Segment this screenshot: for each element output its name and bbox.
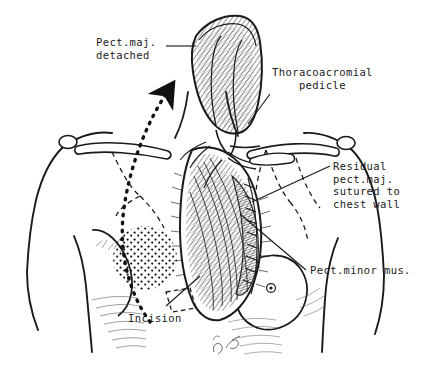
label-incision: Incision (128, 312, 182, 325)
label-pect-maj-detached: Pect.maj. detached (96, 36, 157, 61)
label-pect-minor-mus: Pect.minor mus. (310, 264, 411, 277)
artist-signature (213, 336, 240, 354)
leader-residual (252, 166, 330, 202)
umbilicus (213, 336, 220, 340)
areola-stipple (113, 226, 177, 290)
right-acromion (337, 137, 355, 150)
medical-illustration-figure: Pect.maj. detached Thoracoacromial pedic… (0, 0, 425, 369)
left-clavicle (75, 143, 171, 159)
elevated-muscle-flap (192, 16, 262, 156)
right-nipple (267, 284, 276, 293)
label-residual-pect-maj: Residual pect.maj. sutured to chest wall (333, 160, 400, 210)
label-thoracoacromial-pedicle: Thoracoacromial pedicle (272, 66, 373, 91)
left-acromion (59, 136, 77, 149)
